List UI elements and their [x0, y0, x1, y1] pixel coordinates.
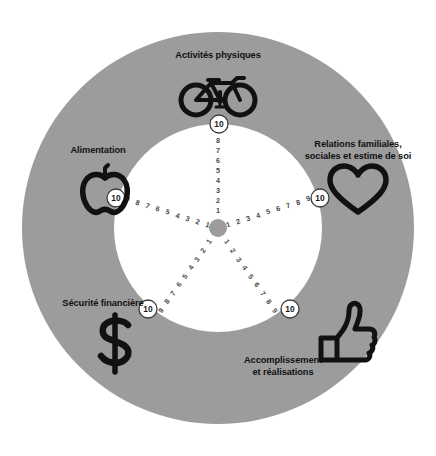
sector-label-relations-familiales-line2: sociales et estime de soi [305, 151, 412, 161]
max-badge-label: 10 [315, 193, 325, 203]
wheel-canvas: 1 2 3 4 5 6 7 8 9 10 1 2 3 4 5 6 7 8 9 [0, 0, 436, 456]
sector-label-securite-financiere: Sécurité financière [62, 298, 143, 308]
axis-tick: 1 [216, 206, 220, 215]
max-badge-label: 10 [143, 304, 153, 314]
axis-tick: 2 [216, 196, 220, 205]
max-badge-accomplissement[interactable]: 10 [281, 300, 299, 318]
sector-label-alimentation: Alimentation [70, 145, 126, 155]
sector-label-relations-familiales-line1: Relations familiales, [314, 139, 401, 149]
axis-tick: 6 [216, 156, 220, 165]
max-badge-label: 10 [111, 193, 121, 203]
sector-label-accomplissement-line2: et réalisations [252, 367, 313, 377]
sector-label-activites-physiques: Activités physiques [175, 50, 260, 60]
max-badge-relations-familiales[interactable]: 10 [311, 189, 329, 207]
max-badge-label: 10 [285, 304, 295, 314]
life-balance-wheel: 1 2 3 4 5 6 7 8 9 10 1 2 3 4 5 6 7 8 9 [0, 0, 436, 456]
sector-label-accomplissement-line1: Accomplissement [244, 355, 322, 365]
axis-tick: 3 [216, 186, 220, 195]
max-badge-label: 10 [214, 119, 224, 129]
axis-tick: 4 [216, 176, 220, 185]
axis-tick: 5 [216, 166, 220, 175]
axis-tick: 7 [216, 146, 220, 155]
axis-tick: 8 [216, 136, 220, 145]
max-badge-activites-physiques[interactable]: 10 [210, 115, 228, 133]
